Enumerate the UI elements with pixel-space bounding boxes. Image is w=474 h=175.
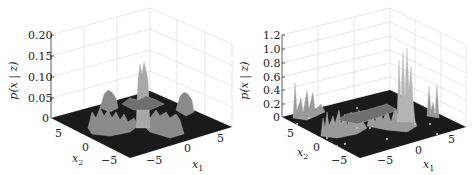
left-surface-plot: 0.20 0.15 0.10 0.05 0 p(x | z) 5 0 −5 x2… xyxy=(0,0,237,175)
left-x2-tick: −5 xyxy=(101,155,117,166)
left-x1-tick: 5 xyxy=(217,133,224,144)
left-z-tick: 0 xyxy=(42,113,49,124)
left-z-tick: 0.10 xyxy=(28,72,53,83)
right-x1-axis-label: x1 xyxy=(423,158,434,173)
right-x1-tick: 5 xyxy=(448,134,455,145)
left-x2-axis-label: x2 xyxy=(72,152,83,167)
right-z-tick: 1.0 xyxy=(263,44,281,55)
right-z-tick: 0.2 xyxy=(263,99,281,110)
right-z-axis-label: p(x | z) xyxy=(238,61,251,99)
right-z-tick: 0.8 xyxy=(263,58,281,69)
left-plot-canvas xyxy=(0,0,237,175)
right-surface-plot: 1.2 1.0 0.8 0.6 0.4 0.2 0 p(x | z) 5 0 −… xyxy=(237,0,474,175)
right-z-tick: 0 xyxy=(273,112,280,123)
right-z-axis xyxy=(282,35,285,117)
left-density-surface xyxy=(88,62,194,138)
right-z-tick: 1.2 xyxy=(263,30,281,41)
left-x1-axis-label: x1 xyxy=(192,158,203,173)
left-x2-tick: 5 xyxy=(55,128,62,139)
right-x2-tick: 5 xyxy=(287,128,294,139)
right-x2-tick: 0 xyxy=(313,142,320,153)
right-z-tick: 0.4 xyxy=(263,85,281,96)
right-z-tick: 0.6 xyxy=(263,72,281,83)
left-z-axis-label: p(x | z) xyxy=(7,61,20,99)
left-z-tick: 0.15 xyxy=(28,51,53,62)
right-x1-tick: −5 xyxy=(377,155,393,166)
left-z-tick: 0.20 xyxy=(28,30,53,41)
right-x1-tick: 0 xyxy=(415,145,422,156)
left-z-tick: 0.05 xyxy=(28,93,53,104)
right-x2-axis-label: x2 xyxy=(297,146,308,161)
left-x1-tick: −5 xyxy=(146,155,162,166)
left-x1-tick: 0 xyxy=(184,143,191,154)
right-x2-tick: −5 xyxy=(331,155,347,166)
